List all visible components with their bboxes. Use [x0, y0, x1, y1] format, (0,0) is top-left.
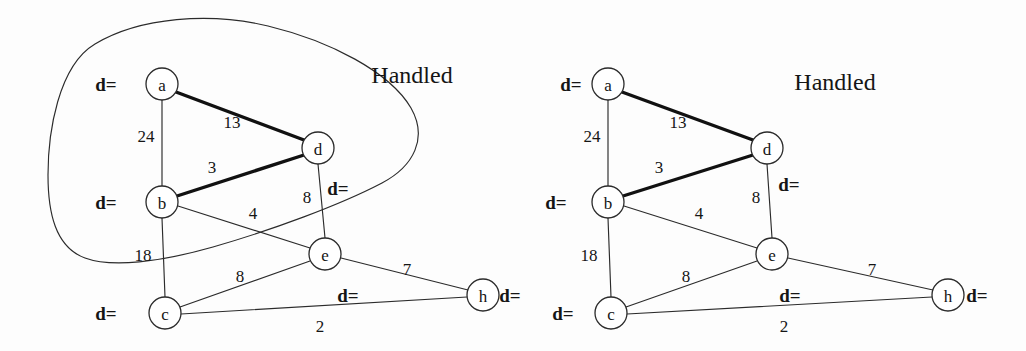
distance-label-a: d=	[560, 74, 581, 95]
distance-label-h: d=	[499, 285, 520, 306]
node-e[interactable]: e	[756, 238, 788, 270]
edge-weight-a-d: 13	[670, 113, 687, 132]
edge-group-right	[608, 92, 933, 314]
edge-weight-b-d: 3	[208, 158, 217, 177]
node-b-label: b	[158, 194, 167, 213]
edge-weight-b-c: 18	[581, 246, 598, 265]
edge-b-c	[162, 218, 165, 297]
edge-b-d	[177, 155, 304, 196]
distance-label-e: d=	[779, 285, 800, 306]
handled-region-outline	[48, 18, 418, 263]
node-e[interactable]: e	[309, 238, 341, 270]
edge-c-h	[181, 297, 467, 314]
edge-weight-a-d: 13	[224, 113, 241, 132]
edge-c-e	[626, 261, 757, 307]
graph-panel-left: a b c d e	[48, 18, 521, 335]
handled-caption-right: Handled	[794, 69, 875, 95]
node-c[interactable]: c	[595, 297, 627, 329]
node-c[interactable]: c	[149, 297, 181, 329]
edge-weight-c-e: 8	[682, 267, 691, 286]
distance-label-e: d=	[337, 285, 358, 306]
node-e-label: e	[768, 246, 776, 265]
diagram-canvas: a b c d e	[0, 0, 1026, 351]
edge-a-d	[622, 92, 753, 140]
edge-c-e	[180, 261, 310, 307]
edge-weight-c-e: 8	[236, 267, 245, 286]
distance-label-h: d=	[966, 285, 987, 306]
edge-weight-d-e: 8	[303, 188, 312, 207]
distance-label-c: d=	[95, 303, 116, 324]
node-a[interactable]: a	[592, 68, 624, 100]
node-group-right: a b c d e	[592, 68, 964, 329]
edge-weight-d-e: 8	[752, 188, 761, 207]
edge-group-left	[162, 92, 468, 314]
graph-diagram-svg: a b c d e	[0, 0, 1026, 351]
node-b[interactable]: b	[592, 186, 624, 218]
node-d-label: d	[763, 140, 772, 159]
edge-weight-b-c: 18	[135, 246, 152, 265]
node-h-label: h	[944, 287, 953, 306]
edge-e-h	[788, 258, 933, 290]
node-c-label: c	[161, 305, 169, 324]
node-h[interactable]: h	[932, 279, 964, 311]
node-a-label: a	[158, 76, 166, 95]
distance-label-d: d=	[778, 174, 799, 195]
edge-weight-e-h: 7	[868, 260, 877, 279]
distance-label-c: d=	[552, 303, 573, 324]
graph-panel-right: a b c d e	[545, 68, 987, 336]
distance-label-b: d=	[545, 192, 566, 213]
edge-weight-b-e: 4	[695, 204, 704, 223]
node-d-label: d	[314, 140, 323, 159]
edge-weight-b-d: 3	[655, 158, 664, 177]
node-b[interactable]: b	[146, 186, 178, 218]
node-c-label: c	[607, 305, 615, 324]
handled-caption-left: Handled	[371, 62, 452, 88]
node-a-label: a	[604, 76, 612, 95]
edge-weight-c-h: 2	[316, 317, 325, 336]
distance-label-b: d=	[95, 192, 116, 213]
distance-label-d: d=	[327, 178, 348, 199]
distance-label-a: d=	[95, 74, 116, 95]
edge-weight-e-h: 7	[403, 260, 412, 279]
node-d[interactable]: d	[302, 132, 334, 164]
edge-d-e	[318, 164, 325, 238]
node-h-label: h	[479, 287, 488, 306]
node-d[interactable]: d	[751, 132, 783, 164]
node-e-label: e	[321, 246, 329, 265]
edge-b-e	[624, 206, 757, 248]
edge-weight-b-e: 4	[249, 204, 258, 223]
edge-b-e	[178, 206, 310, 248]
edge-d-e	[767, 164, 772, 238]
edge-b-c	[608, 218, 611, 297]
node-a[interactable]: a	[146, 68, 178, 100]
edge-weight-a-b: 24	[138, 127, 156, 146]
node-group-left: a b c d e	[146, 68, 499, 329]
node-h[interactable]: h	[467, 279, 499, 311]
node-b-label: b	[604, 194, 613, 213]
edge-b-d	[623, 155, 753, 196]
edge-weight-a-b: 24	[584, 127, 602, 146]
edge-weight-c-h: 2	[780, 317, 789, 336]
